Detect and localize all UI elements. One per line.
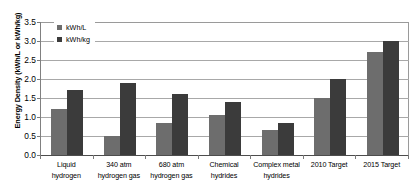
y-axis-tick-mark [37, 60, 40, 61]
chart-legend: kWh/LkWh/kg [54, 19, 95, 48]
x-axis-category-label: 2010 Target [303, 160, 356, 171]
x-axis-category-label-line: Chemical [198, 160, 251, 171]
y-axis-tick-labels: 0.00.51.01.52.02.53.03.5 [14, 22, 36, 155]
x-axis-category-label: Chemicalhydrides [198, 160, 251, 181]
y-axis-tick-mark [37, 136, 40, 137]
bar-kwh-per-kg [172, 94, 188, 155]
y-axis-tick-label: 3.0 [14, 37, 36, 45]
bar-kwh-per-l [209, 115, 225, 155]
x-axis-category-label-line: hydrogen [40, 171, 93, 182]
legend-swatch-icon [57, 25, 62, 30]
x-axis-category-label-line: Liquid [40, 160, 93, 171]
x-axis-tick-mark [303, 155, 304, 159]
y-axis-tick-label: 2.5 [14, 56, 36, 64]
x-axis-category-label-line: 680 atm [145, 160, 198, 171]
x-axis-category-label-line: hydrogen gas [145, 171, 198, 182]
bar-kwh-per-kg [278, 123, 294, 155]
bar-kwh-per-l [104, 136, 120, 155]
bar-kwh-per-kg [225, 102, 241, 155]
x-axis-tick-mark [93, 155, 94, 159]
bar-kwh-per-l [367, 52, 383, 155]
legend-label: kWh/L [66, 24, 86, 31]
x-axis-category-label: 2015 Target [355, 160, 408, 171]
x-axis-category-label: 340 atmhydrogen gas [93, 160, 146, 181]
bar-kwh-per-l [156, 123, 172, 155]
y-axis-tick-mark [37, 41, 40, 42]
legend-label: kWh/kg [66, 36, 90, 43]
y-axis-tick-mark [37, 22, 40, 23]
x-axis-category-label-line: Complex metal [250, 160, 303, 171]
legend-item: kWh/kg [57, 34, 90, 45]
bar-kwh-per-l [262, 130, 278, 155]
bar-group [356, 22, 409, 155]
x-axis-category-labels: Liquidhydrogen340 atmhydrogen gas680 atm… [40, 160, 408, 194]
x-axis-category-label-line: hydrogen gas [93, 171, 146, 182]
x-axis-category-label-line: hydrides [250, 171, 303, 182]
y-axis-tick-label: 0.0 [14, 151, 36, 159]
x-axis-category-label-line: 340 atm [93, 160, 146, 171]
y-axis-tick-mark [37, 98, 40, 99]
bar-group [251, 22, 304, 155]
x-axis-category-label-line: hydrides [198, 171, 251, 182]
legend-item: kWh/L [57, 22, 90, 33]
x-axis-tick-mark [250, 155, 251, 159]
y-axis-tick-label: 2.0 [14, 75, 36, 83]
bar-kwh-per-l [314, 98, 330, 155]
plot-area [40, 22, 409, 156]
x-axis-tick-mark [198, 155, 199, 159]
bar-group [146, 22, 199, 155]
bar-group [199, 22, 252, 155]
y-axis-tick-mark [37, 79, 40, 80]
bar-kwh-per-kg [67, 90, 83, 155]
x-axis-category-label-line: 2015 Target [355, 160, 408, 171]
bar-kwh-per-kg [383, 41, 399, 155]
x-axis-category-label: 680 atmhydrogen gas [145, 160, 198, 181]
y-axis-tick-label: 0.5 [14, 132, 36, 140]
x-axis-tick-mark [408, 155, 409, 159]
x-axis-tick-mark [40, 155, 41, 159]
bar-chart: Energy Density (kWh/L or kWh/kg) 0.00.51… [0, 0, 418, 196]
bar-group [94, 22, 147, 155]
legend-swatch-icon [57, 37, 62, 42]
x-axis-category-label: Liquidhydrogen [40, 160, 93, 181]
bar-kwh-per-kg [120, 83, 136, 155]
x-axis-tick-mark [355, 155, 356, 159]
bar-group [304, 22, 357, 155]
y-axis-tick-label: 1.5 [14, 94, 36, 102]
bar-kwh-per-kg [330, 79, 346, 155]
x-axis-category-label-line: 2010 Target [303, 160, 356, 171]
x-axis-category-label: Complex metalhydrides [250, 160, 303, 181]
x-axis-tick-mark [145, 155, 146, 159]
y-axis-tick-label: 1.0 [14, 113, 36, 121]
y-axis-tick-label: 3.5 [14, 18, 36, 26]
bar-kwh-per-l [51, 109, 67, 155]
y-axis-tick-mark [37, 117, 40, 118]
bars-layer [41, 22, 409, 155]
